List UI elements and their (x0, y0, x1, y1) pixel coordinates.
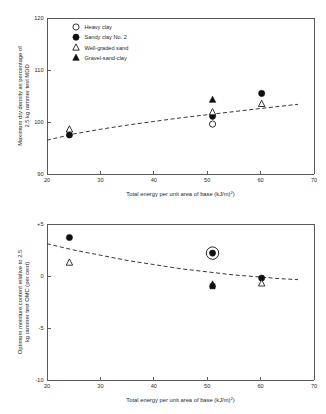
x-tick-label-60: 60 (257, 383, 263, 389)
data-point-sandy-clay-no-2-1 (209, 250, 215, 256)
x-tick-label-70: 70 (311, 383, 317, 389)
y-tick-label-90: 90 (37, 171, 43, 177)
chart-top-max-dry-density: 20304050607090100110120Total energy per … (0, 0, 326, 208)
y-tick-label--10: -10 (35, 377, 43, 383)
data-point-sandy-clay-no-2-0 (66, 132, 72, 138)
data-point-heavy-clay-0 (210, 284, 215, 289)
y-axis-title-line-1: Maximum dry density as percentage of (17, 46, 23, 146)
y-axis-title-line-2: kg rammer test OMC (per cent) (24, 262, 30, 342)
data-point-sandy-clay-no-2-2 (259, 90, 265, 96)
x-tick-label-50: 50 (204, 383, 210, 389)
legend-label-0: Heavy clay (85, 24, 113, 30)
legend-label-2: Well-graded sand (85, 45, 129, 51)
figure-page: 20304050607090100110120Total energy per … (0, 0, 326, 414)
plot-axes (47, 18, 314, 174)
x-tick-label-20: 20 (44, 383, 50, 389)
legend-label-3: Gravel-sand-clay (85, 55, 127, 61)
y-tick-label--5: -5 (39, 325, 44, 331)
x-tick-label-40: 40 (151, 383, 157, 389)
y-tick-label-110: 110 (35, 67, 44, 73)
data-point-legend-open-triangle-2 (73, 44, 79, 50)
y-tick-label-0: 0 (40, 273, 43, 279)
x-tick-label-20: 20 (44, 177, 50, 183)
plot-frame-top-right (47, 18, 314, 174)
chart-top-svg: 20304050607090100110120Total energy per … (0, 0, 326, 208)
legend-label-1: Sandy clay No. 2 (85, 34, 127, 40)
x-tick-label-60: 60 (257, 177, 263, 183)
data-point-well-graded-sand-2 (258, 100, 264, 106)
data-point-legend-filled-triangle-3 (73, 54, 79, 60)
x-tick-label-30: 30 (97, 177, 103, 183)
plot-axes (47, 224, 314, 380)
y-axis-title-line-2: 2.5 kg rammer test MDD (24, 64, 30, 127)
data-point-well-graded-sand-1 (209, 109, 215, 115)
trend-line (47, 104, 298, 140)
data-point-legend-open-circle-0 (73, 24, 79, 30)
y-tick-label-120: 120 (34, 15, 43, 21)
y-tick-label-5: +5 (37, 221, 43, 227)
x-axis-title: Total energy per unit area of base (kJ/m… (126, 396, 234, 403)
x-tick-label-40: 40 (151, 177, 157, 183)
plot-frame-top-right (47, 224, 314, 380)
y-tick-label-100: 100 (34, 119, 43, 125)
x-axis-title: Total energy per unit area of base (kJ/m… (126, 190, 234, 197)
trend-line (47, 244, 298, 280)
chart-bottom-optimum-moisture: 203040506070-10-50+5Total energy per uni… (0, 206, 326, 414)
data-point-sandy-clay-no-2-0 (66, 234, 72, 240)
x-tick-label-30: 30 (97, 383, 103, 389)
data-point-well-graded-sand-0 (66, 259, 72, 265)
data-point-well-graded-sand-1 (258, 280, 264, 286)
x-tick-label-70: 70 (311, 177, 317, 183)
data-point-heavy-clay-0 (209, 121, 215, 127)
data-point-well-graded-sand-0 (66, 126, 72, 132)
data-point-legend-filled-circle-1 (73, 34, 79, 40)
x-tick-label-50: 50 (204, 177, 210, 183)
chart-bottom-svg: 203040506070-10-50+5Total energy per uni… (0, 206, 326, 414)
y-axis-title-line-1: Optimum moisture content relative to 2.5 (17, 250, 23, 354)
data-point-gravel-sand-clay-0 (209, 96, 215, 102)
